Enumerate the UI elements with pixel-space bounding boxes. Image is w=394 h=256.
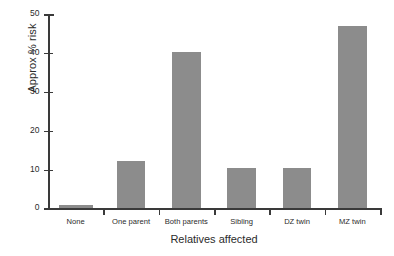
y-tick-30: 30 — [44, 92, 53, 93]
x-tick-label-dz-twin: DZ twin — [284, 217, 310, 226]
y-tick-40: 40 — [44, 53, 53, 54]
x-tick-3 — [214, 208, 216, 215]
y-tick-label-20: 20 — [30, 125, 39, 135]
x-tick-label-none: None — [67, 217, 85, 226]
bar-mz-twin — [338, 26, 367, 209]
plot-area: 01020304050 NoneOne parentBoth parentsSi… — [48, 14, 380, 210]
x-tick-2 — [159, 208, 161, 215]
y-tick-label-40: 40 — [30, 47, 39, 57]
x-tick-5 — [325, 208, 327, 215]
bar-chart-figure: Approx % risk 01020304050 NoneOne parent… — [0, 0, 394, 256]
bar-one-parent — [117, 161, 146, 208]
x-tick-6 — [380, 208, 382, 215]
y-tick-20: 20 — [44, 131, 53, 132]
x-tick-label-mz-twin: MZ twin — [339, 217, 366, 226]
x-tick-label-sibling: Sibling — [230, 217, 253, 226]
x-tick-4 — [269, 208, 271, 215]
y-axis-line — [48, 14, 50, 210]
y-tick-0: 0 — [44, 208, 53, 209]
x-axis-title: Relatives affected — [48, 233, 380, 245]
y-tick-10: 10 — [44, 170, 53, 171]
bar-sibling — [227, 168, 256, 208]
bar-both-parents — [172, 52, 201, 209]
x-tick-1 — [103, 208, 105, 215]
x-tick-label-one-parent: One parent — [112, 217, 150, 226]
bar-dz-twin — [283, 168, 312, 208]
x-tick-label-both-parents: Both parents — [165, 217, 208, 226]
bar-none — [59, 205, 93, 209]
y-tick-label-0: 0 — [35, 202, 40, 212]
y-tick-label-30: 30 — [30, 86, 39, 96]
y-tick-label-50: 50 — [30, 8, 39, 18]
y-tick-50: 50 — [44, 14, 53, 15]
y-axis-title: Approx % risk — [26, 0, 38, 138]
y-tick-label-10: 10 — [30, 164, 39, 174]
